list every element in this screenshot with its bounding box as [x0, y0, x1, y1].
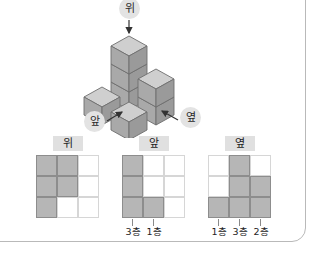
cell	[143, 155, 164, 176]
cell	[250, 176, 271, 197]
cell	[208, 155, 229, 176]
tick-label: 2층	[249, 226, 273, 238]
cell	[164, 197, 185, 218]
cell	[208, 176, 229, 197]
cell	[208, 197, 229, 218]
cell	[57, 197, 78, 218]
cell	[36, 197, 57, 218]
direction-label-side: 옆	[180, 107, 201, 128]
cell	[122, 176, 143, 197]
cell	[229, 176, 250, 197]
cell	[36, 176, 57, 197]
cell	[164, 155, 185, 176]
tick-label: 1층	[142, 226, 166, 238]
direction-label-front: 앞	[84, 111, 105, 132]
cell	[250, 197, 271, 218]
grid-top	[36, 155, 99, 218]
view-front: 앞 3층 1층	[122, 136, 185, 239]
tick-row-top	[36, 219, 99, 239]
cell	[36, 155, 57, 176]
view-title-front: 앞	[139, 136, 169, 151]
cell	[78, 155, 99, 176]
cell	[122, 197, 143, 218]
cell	[57, 176, 78, 197]
isometric-solid-diagram: 위 앞 옆	[0, 0, 300, 138]
cell	[78, 176, 99, 197]
cell	[57, 155, 78, 176]
view-title-side: 옆	[225, 136, 255, 151]
cell	[78, 197, 99, 218]
view-top: 위	[36, 136, 99, 239]
cell	[143, 176, 164, 197]
cell	[143, 197, 164, 218]
view-title-top: 위	[53, 136, 83, 151]
cell	[229, 155, 250, 176]
orthographic-views: 위 앞	[0, 136, 322, 256]
view-side: 옆 1층 3층 2층	[208, 136, 271, 239]
cell	[229, 197, 250, 218]
tick-row-side: 1층 3층 2층	[208, 219, 271, 239]
cell	[164, 176, 185, 197]
grid-side	[208, 155, 271, 218]
isometric-cube-stack-svg	[0, 0, 300, 138]
worksheet-page: 위 앞 옆 위 앞	[0, 0, 322, 258]
tick-row-front: 3층 1층	[122, 219, 185, 239]
cell	[122, 155, 143, 176]
cell	[250, 155, 271, 176]
grid-front	[122, 155, 185, 218]
